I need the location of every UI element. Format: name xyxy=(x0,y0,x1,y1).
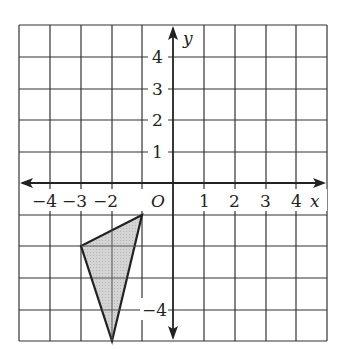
x-tick-label: 3 xyxy=(260,191,271,211)
coordinate-plane: y x O −4 −3 −2 1 2 3 4 4 3 2 1 −4 xyxy=(0,0,343,349)
y-tick-label: −4 xyxy=(142,300,167,320)
x-axis-label: x xyxy=(310,191,320,211)
y-tick-label: 4 xyxy=(152,47,163,67)
y-tick-label: 2 xyxy=(152,110,163,130)
y-axis-label: y xyxy=(182,28,193,48)
x-tick-label: 1 xyxy=(199,191,210,211)
origin-label: O xyxy=(151,191,165,211)
y-tick-label: 1 xyxy=(152,142,163,162)
y-tick-label: 3 xyxy=(152,79,163,99)
x-tick-label: −2 xyxy=(93,191,118,211)
x-tick-label: −3 xyxy=(62,191,87,211)
x-tick-label: −4 xyxy=(32,191,57,211)
x-tick-label: 4 xyxy=(291,191,302,211)
x-tick-label: 2 xyxy=(229,191,240,211)
